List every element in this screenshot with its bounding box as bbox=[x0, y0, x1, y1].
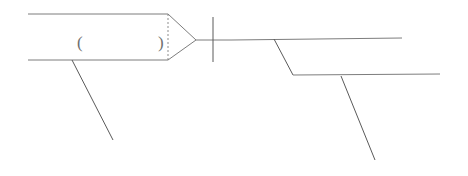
right-lower-horizontal bbox=[293, 74, 440, 75]
arrow-head-upper-edge bbox=[168, 14, 196, 40]
diagram-canvas: ( ) bbox=[0, 0, 468, 176]
right-bottom-diagonal bbox=[341, 76, 375, 160]
close-paren-label: ) bbox=[158, 34, 164, 51]
arrow-head-lower-edge bbox=[168, 40, 196, 60]
line-diagram-svg bbox=[0, 0, 468, 176]
open-paren-label: ( bbox=[77, 34, 83, 51]
left-lower-diagonal bbox=[72, 60, 113, 140]
right-upper-to-lower-diagonal bbox=[274, 39, 293, 75]
right-upper-horizontal bbox=[232, 38, 402, 40]
